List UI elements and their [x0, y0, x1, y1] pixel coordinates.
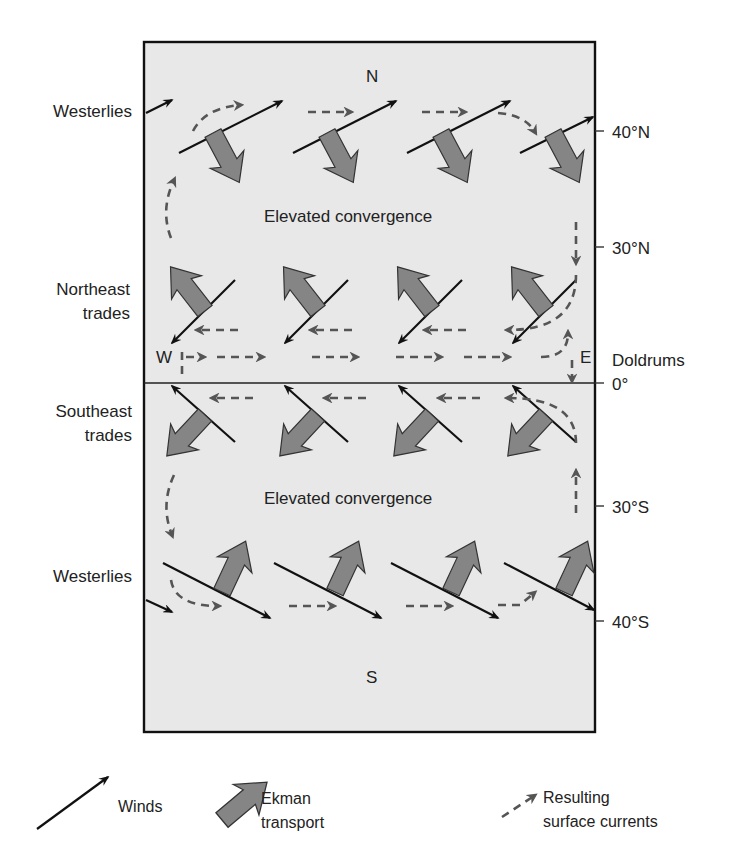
current-arrow-icon	[502, 796, 534, 817]
wind-line-icon	[37, 777, 108, 829]
lat-0-label: 0°	[612, 375, 628, 394]
legend: Winds Ekman transport Resulting surface …	[37, 767, 658, 835]
legend-ekman: Ekman transport	[209, 767, 325, 835]
westerlies-north-label: Westerlies	[53, 102, 132, 121]
ne-trades-label-1: Northeast	[56, 280, 130, 299]
legend-ekman-label-2: transport	[261, 814, 325, 831]
ekman-diagram: N S W E Elevated convergence Elevated co…	[0, 0, 733, 864]
westerlies-south-label: Westerlies	[53, 567, 132, 586]
north-label: N	[366, 67, 378, 86]
lat-30s-label: 30°S	[612, 498, 649, 517]
se-trades-label-1: Southeast	[55, 402, 132, 421]
legend-currents-label-2: surface currents	[543, 813, 658, 830]
west-label: W	[156, 348, 172, 367]
lat-40n-label: 40°N	[612, 123, 650, 142]
legend-winds-label: Winds	[118, 798, 162, 815]
doldrums-label: Doldrums	[612, 351, 685, 370]
south-convergence-label: Elevated convergence	[264, 489, 432, 508]
se-trades-label-2: trades	[85, 426, 132, 445]
lat-40s-label: 40°S	[612, 613, 649, 632]
lat-30n-label: 30°N	[612, 239, 650, 258]
legend-winds: Winds	[37, 777, 162, 829]
east-label: E	[580, 348, 591, 367]
north-convergence-label: Elevated convergence	[264, 207, 432, 226]
legend-ekman-label-1: Ekman	[261, 790, 311, 807]
legend-currents: Resulting surface currents	[502, 789, 658, 830]
ne-trades-label-2: trades	[83, 304, 130, 323]
south-label: S	[366, 668, 377, 687]
legend-currents-label-1: Resulting	[543, 789, 610, 806]
latitude-ticks	[595, 131, 604, 621]
